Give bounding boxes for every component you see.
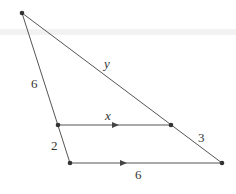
base-right-point bbox=[220, 161, 225, 166]
label-base: 6 bbox=[135, 167, 142, 182]
base-left-point bbox=[68, 161, 73, 166]
parallel-arrow-lower bbox=[120, 160, 127, 166]
label-left-lower: 2 bbox=[51, 138, 58, 153]
right-mid-point bbox=[169, 123, 174, 128]
label-left-upper: 6 bbox=[31, 76, 38, 91]
triangle-diagram: 6 2 y 3 x 6 bbox=[0, 0, 236, 194]
label-right-lower: 3 bbox=[198, 130, 205, 145]
parallel-arrow-upper bbox=[112, 122, 119, 128]
label-parallel: x bbox=[104, 108, 111, 123]
apex-point bbox=[20, 11, 25, 16]
label-right-upper: y bbox=[102, 56, 110, 71]
left-side bbox=[22, 13, 70, 163]
scan-band bbox=[0, 29, 236, 35]
left-mid-point bbox=[56, 123, 61, 128]
